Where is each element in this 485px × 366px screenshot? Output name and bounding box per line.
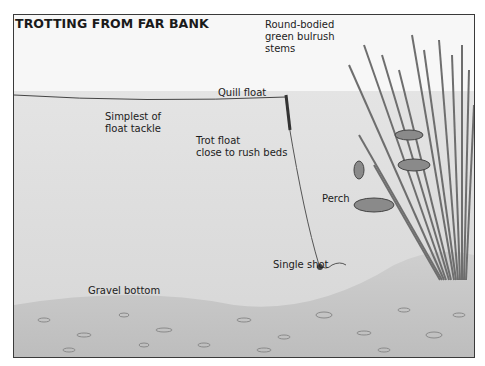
label-trot-float: Trot float close to rush beds	[196, 135, 287, 159]
label-quill-float: Quill float	[218, 87, 266, 99]
label-simplest-tackle: Simplest of float tackle	[105, 111, 161, 135]
diagram-title: TROTTING FROM FAR BANK	[15, 16, 209, 31]
label-bulrush: Round-bodied green bulrush stems	[265, 19, 335, 55]
scene-illustration	[14, 15, 474, 357]
illustration-frame: TROTTING FROM FAR BANK Round-bodied gree…	[13, 14, 475, 358]
label-perch: Perch	[322, 193, 350, 205]
label-gravel-bottom: Gravel bottom	[88, 285, 160, 297]
label-single-shot: Single shot	[273, 259, 329, 271]
